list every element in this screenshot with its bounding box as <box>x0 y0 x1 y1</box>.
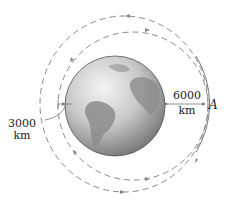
arrow-icon <box>125 14 130 18</box>
point-A-label: A <box>209 98 218 112</box>
right-distance-label: 6000 km <box>170 90 204 117</box>
earth-icon <box>65 56 165 156</box>
left-distance-unit: km <box>4 130 40 142</box>
arrow-icon <box>195 158 198 163</box>
arrow-icon <box>145 28 150 32</box>
arrow-icon <box>120 190 125 194</box>
right-distance-unit: km <box>170 105 204 117</box>
right-distance-value: 6000 <box>170 90 204 102</box>
left-distance-label: 3000 km <box>4 118 40 142</box>
arrow-icon <box>145 177 150 181</box>
